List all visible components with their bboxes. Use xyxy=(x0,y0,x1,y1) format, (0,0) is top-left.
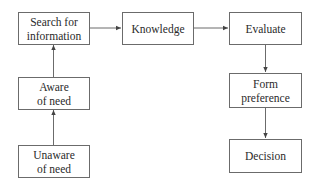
node-aware-of-need: Aware of need xyxy=(18,77,90,110)
node-knowledge: Knowledge xyxy=(122,12,194,45)
node-form-preference: Form preference xyxy=(229,73,302,108)
node-unaware-of-need: Unaware of need xyxy=(18,145,90,178)
node-decision: Decision xyxy=(229,139,302,173)
node-evaluate: Evaluate xyxy=(229,12,302,45)
node-search-for-information: Search for information xyxy=(18,12,90,45)
